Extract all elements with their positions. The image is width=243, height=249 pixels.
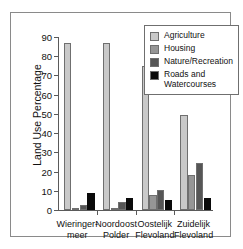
bar xyxy=(188,175,195,210)
legend-label: Roads andWatercourses xyxy=(164,70,216,89)
y-tick xyxy=(54,56,58,57)
y-tick-label: 30 xyxy=(41,147,52,158)
x-tick xyxy=(174,211,175,215)
legend-item: Roads andWatercourses xyxy=(150,70,233,89)
legend-label-line: Housing xyxy=(164,44,195,54)
bar xyxy=(72,208,79,210)
x-tick-label: ZuidelijkFlevoland xyxy=(169,219,218,240)
y-tick xyxy=(54,114,58,115)
y-tick-label: 80 xyxy=(41,51,52,62)
legend: AgricultureHousingNature/RecreationRoads… xyxy=(144,25,239,95)
y-tick xyxy=(54,172,58,173)
bar xyxy=(111,208,118,210)
y-tick xyxy=(54,133,58,134)
y-tick xyxy=(54,75,58,76)
legend-item: Agriculture xyxy=(150,31,233,41)
legend-label-line: Nature/Recreation xyxy=(164,57,233,67)
bar xyxy=(157,190,164,210)
y-tick-label: 70 xyxy=(41,70,52,81)
y-tick xyxy=(54,37,58,38)
x-tick-label-line: Flevoland xyxy=(169,230,218,241)
bar xyxy=(165,200,172,210)
bar xyxy=(180,115,187,210)
y-tick-label: 0 xyxy=(47,205,52,216)
y-tick-label: 10 xyxy=(41,185,52,196)
legend-swatch xyxy=(150,45,159,54)
legend-label-line: Agriculture xyxy=(164,31,205,41)
y-tick-label: 60 xyxy=(41,89,52,100)
legend-label: Nature/Recreation xyxy=(164,57,233,67)
figure: Land Use Percentage 0102030405060708090 … xyxy=(0,0,243,249)
bar xyxy=(87,193,94,210)
bar xyxy=(149,195,156,210)
legend-swatch xyxy=(150,71,159,80)
legend-label: Agriculture xyxy=(164,31,205,41)
x-tick-label-line: Zuidelijk xyxy=(169,219,218,230)
bar xyxy=(196,163,203,210)
y-axis-line xyxy=(58,37,59,211)
x-tick xyxy=(97,211,98,215)
y-tick-label: 40 xyxy=(41,128,52,139)
y-tick xyxy=(54,152,58,153)
bar xyxy=(80,205,87,210)
bar xyxy=(204,198,211,210)
bar xyxy=(126,198,133,210)
legend-label-line: Watercourses xyxy=(164,80,216,90)
y-tick-label: 20 xyxy=(41,166,52,177)
legend-swatch xyxy=(150,58,159,67)
legend-label: Housing xyxy=(164,44,195,54)
bar xyxy=(64,43,71,210)
figure-frame: Land Use Percentage 0102030405060708090 … xyxy=(10,12,231,237)
y-tick xyxy=(54,95,58,96)
y-tick xyxy=(54,210,58,211)
x-tick xyxy=(136,211,137,215)
legend-item: Housing xyxy=(150,44,233,54)
y-tick-label: 50 xyxy=(41,108,52,119)
y-tick-label: 90 xyxy=(41,32,52,43)
legend-swatch xyxy=(150,32,159,41)
bar xyxy=(103,43,110,210)
bar xyxy=(118,202,125,210)
y-tick xyxy=(54,191,58,192)
legend-item: Nature/Recreation xyxy=(150,57,233,67)
